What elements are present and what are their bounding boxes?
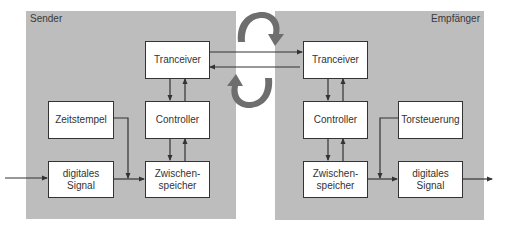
torsteuerung-block: Torsteuerung xyxy=(398,101,463,139)
receiver-digitales-signal-block: digitales Signal xyxy=(398,161,463,198)
receiver-zwischenspeicher-block: Zwischen- speicher xyxy=(303,161,368,198)
zeitstempel-block: Zeitstempel xyxy=(48,101,114,139)
sender-tranceiver-block: Tranceiver xyxy=(145,41,210,79)
receiver-tranceiver-block: Tranceiver xyxy=(303,41,368,79)
sender-digitales-signal-block: digitales Signal xyxy=(48,161,114,198)
sender-zwischenspeicher-block: Zwischen- speicher xyxy=(145,161,210,198)
receiver-controller-block: Controller xyxy=(303,101,368,139)
sender-controller-block: Controller xyxy=(145,101,210,139)
exchange-arrows-icon xyxy=(227,12,284,108)
